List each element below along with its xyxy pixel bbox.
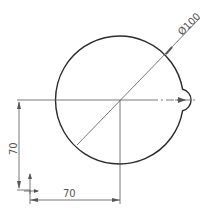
- origin-icon: [24, 173, 39, 194]
- horizontal-dim-label: 70: [63, 188, 76, 199]
- diameter-label: Ø100: [176, 11, 203, 38]
- cad-sketch-canvas[interactable]: Ø100 70 70: [0, 0, 214, 210]
- vertical-dim-label: 70: [8, 142, 19, 155]
- horizontal-dimension[interactable]: 70: [30, 188, 120, 204]
- diameter-dimension[interactable]: Ø100: [77, 11, 202, 145]
